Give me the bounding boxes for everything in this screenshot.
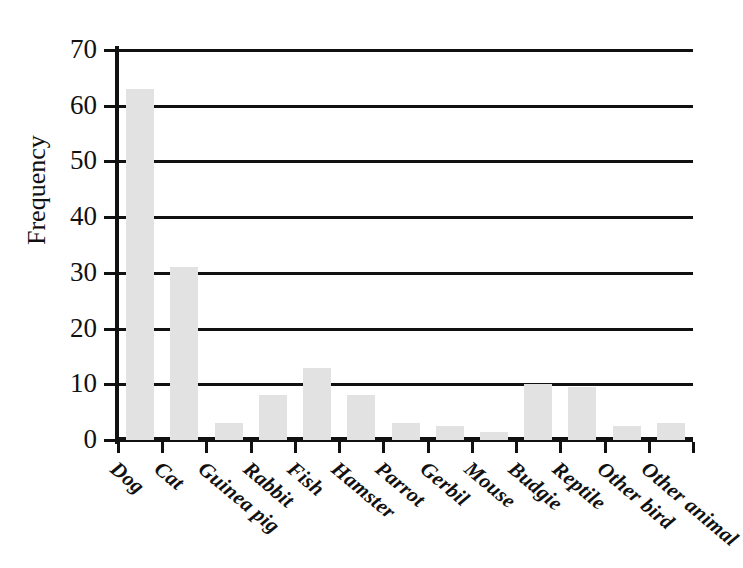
- x-tick-label: Gerbil: [416, 458, 472, 510]
- x-tick-mark: [471, 442, 474, 453]
- bar: [259, 395, 287, 440]
- x-tick-mark: [338, 442, 341, 453]
- bar: [126, 89, 154, 440]
- bar: [657, 423, 685, 440]
- bar: [613, 426, 641, 440]
- y-tick: 0: [104, 439, 115, 442]
- bar: [568, 387, 596, 440]
- y-tick-mark: [104, 439, 115, 442]
- x-tick-mark: [382, 442, 385, 453]
- y-tick: 60: [104, 105, 115, 108]
- gridline: [118, 328, 693, 331]
- y-tick-label: 0: [84, 426, 98, 453]
- y-tick-label: 20: [70, 314, 97, 341]
- x-tick-label: Dog: [107, 458, 149, 498]
- y-tick-mark: [104, 383, 115, 386]
- y-tick-label: 40: [70, 203, 97, 230]
- bar: [303, 368, 331, 440]
- bar: [480, 432, 508, 440]
- bar: [215, 423, 243, 440]
- gridline: [118, 49, 693, 52]
- gridline: [118, 216, 693, 219]
- x-tick-mark: [250, 442, 253, 453]
- bar: [524, 384, 552, 440]
- y-tick: 30: [104, 272, 115, 275]
- bar: [436, 426, 464, 440]
- bar: [392, 423, 420, 440]
- x-tick-mark: [515, 442, 518, 453]
- x-tick-mark: [205, 442, 208, 453]
- plot-area: 010203040506070: [118, 50, 693, 440]
- y-tick-label: 60: [70, 91, 97, 118]
- y-tick-mark: [104, 216, 115, 219]
- x-tick-mark: [559, 442, 562, 453]
- gridline: [118, 105, 693, 108]
- x-tick-mark: [117, 442, 120, 453]
- y-tick-mark: [104, 49, 115, 52]
- y-tick-mark: [104, 105, 115, 108]
- y-tick-mark: [104, 160, 115, 163]
- gridline: [118, 160, 693, 163]
- y-tick: 50: [104, 160, 115, 163]
- x-tick-mark: [161, 442, 164, 453]
- x-tick-mark: [604, 442, 607, 453]
- bar: [170, 267, 198, 440]
- bar: [347, 395, 375, 440]
- y-tick-label: 70: [70, 36, 97, 63]
- y-tick: 40: [104, 216, 115, 219]
- y-tick-mark: [104, 272, 115, 275]
- y-tick: 10: [104, 383, 115, 386]
- gridline: [118, 272, 693, 275]
- x-tick-mark: [648, 442, 651, 453]
- gridline: [118, 383, 693, 386]
- x-tick-mark: [294, 442, 297, 453]
- y-tick-label: 10: [70, 370, 97, 397]
- y-tick: 70: [104, 49, 115, 52]
- y-tick-mark: [104, 328, 115, 331]
- y-tick: 20: [104, 328, 115, 331]
- y-axis-title: Frequency: [24, 135, 50, 245]
- y-tick-label: 50: [70, 147, 97, 174]
- x-tick-label: Cat: [151, 458, 188, 494]
- x-tick-mark: [427, 442, 430, 453]
- y-tick-label: 30: [70, 258, 97, 285]
- x-tick-mark: [692, 442, 695, 453]
